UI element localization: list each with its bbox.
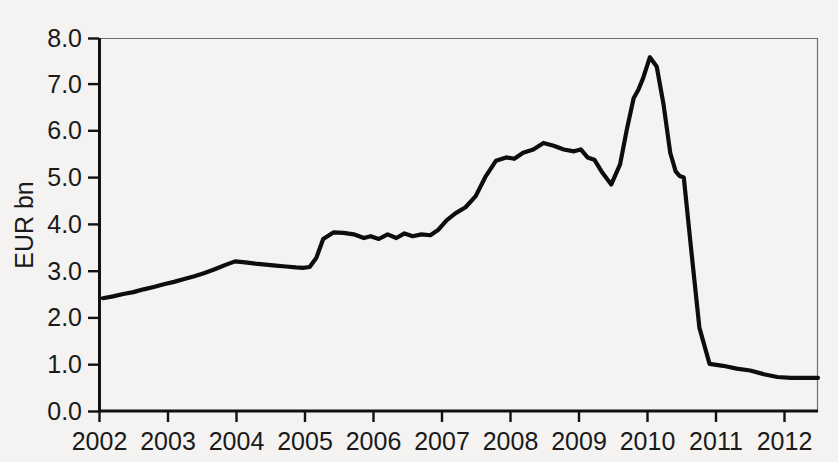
y-tick-label-4: 4.0 [47, 210, 82, 238]
y-axis-tick-labels: 0.0 1.0 2.0 3.0 4.0 5.0 6.0 7.0 8.0 [47, 24, 82, 425]
y-axis-title: EUR bn [10, 181, 38, 269]
x-axis-tick-labels: 2002 2003 2004 2005 2006 2007 2008 2009 … [72, 427, 813, 455]
y-tick-label-3: 3.0 [47, 257, 82, 285]
x-tick-label-2012: 2012 [757, 427, 813, 455]
x-tick-label-2010: 2010 [620, 427, 676, 455]
y-tick-label-2: 2.0 [47, 303, 82, 331]
x-tick-label-2008: 2008 [483, 427, 539, 455]
x-tick-label-2009: 2009 [551, 427, 607, 455]
y-tick-label-7: 7.0 [47, 70, 82, 98]
figure-background [0, 0, 838, 462]
line-chart: 0.0 1.0 2.0 3.0 4.0 5.0 6.0 7.0 8.0 2 [0, 0, 838, 462]
x-tick-label-2011: 2011 [689, 427, 743, 455]
x-tick-label-2007: 2007 [414, 427, 470, 455]
y-tick-label-8: 8.0 [47, 24, 82, 52]
x-tick-label-2006: 2006 [346, 427, 402, 455]
y-tick-label-6: 6.0 [47, 116, 82, 144]
x-tick-label-2003: 2003 [140, 427, 196, 455]
y-tick-label-0: 0.0 [47, 397, 82, 425]
x-tick-label-2002: 2002 [72, 427, 128, 455]
y-tick-label-1: 1.0 [47, 350, 82, 378]
chart-figure: 0.0 1.0 2.0 3.0 4.0 5.0 6.0 7.0 8.0 2 [0, 0, 838, 462]
x-tick-label-2004: 2004 [209, 427, 265, 455]
y-tick-label-5: 5.0 [47, 163, 82, 191]
x-tick-label-2005: 2005 [277, 427, 333, 455]
